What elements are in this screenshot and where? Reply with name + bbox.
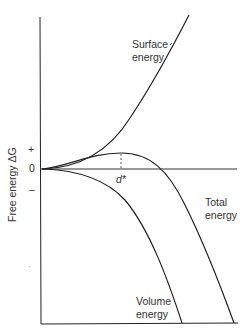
y-axis <box>40 17 41 324</box>
diagram-canvas <box>0 0 249 336</box>
surface-energy-label: Surface energy <box>132 38 168 63</box>
stray-mark: · <box>28 262 31 271</box>
tick-plus: + <box>28 143 34 155</box>
volume-energy-label: Volume energy <box>136 295 171 320</box>
surface-label-leader <box>170 43 172 45</box>
x-axis-bottom <box>41 323 238 324</box>
critical-size-label: d* <box>116 173 126 186</box>
tick-zero: 0 <box>29 162 35 174</box>
total-energy-label: Total energy <box>205 196 237 221</box>
y-axis-label: Free energy ΔG <box>6 147 18 222</box>
tick-minus: – <box>29 183 35 195</box>
